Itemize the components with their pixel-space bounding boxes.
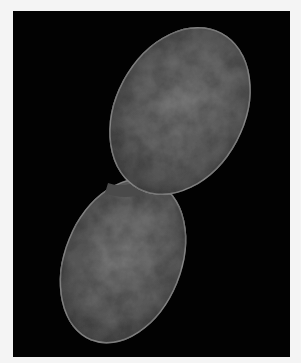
micrograph-image [13,11,290,357]
micrograph-frame [13,11,290,357]
